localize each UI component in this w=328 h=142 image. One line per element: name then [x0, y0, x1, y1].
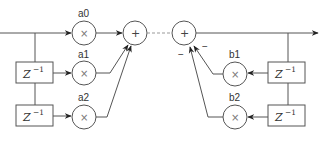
delay-exponent: −1: [285, 65, 296, 74]
delay-exponent: −1: [33, 65, 44, 74]
summation-node-right: +: [172, 21, 196, 45]
plus-icon: +: [131, 27, 140, 40]
delay-label: Z: [22, 68, 31, 81]
multiplier-a1: a1 ×: [72, 49, 96, 85]
coefficient-label: a2: [78, 92, 90, 103]
coefficient-label: a1: [78, 49, 90, 60]
delay-label: Z: [274, 111, 283, 124]
delay-box-left-1: Z −1: [16, 62, 53, 83]
delay-exponent: −1: [33, 108, 44, 117]
feedforward-section: Z −1 Z −1 a0 × a1 × a2 ×: [0, 8, 147, 129]
multiply-icon: ×: [80, 68, 88, 79]
coefficient-label: b1: [229, 49, 241, 60]
delay-label: Z: [22, 111, 31, 124]
feedback-section: + − − Z −1 Z −1 b1 × b2: [172, 21, 318, 129]
delay-box-right-2: Z −1: [268, 105, 305, 126]
delay-label: Z: [274, 68, 283, 81]
multiply-icon: ×: [80, 112, 88, 123]
delay-box-right-1: Z −1: [268, 62, 305, 83]
b2-to-sum-line: [190, 47, 223, 117]
iir-filter-diagram: Z −1 Z −1 a0 × a1 × a2 ×: [0, 0, 328, 142]
multiplier-b1: b1 ×: [223, 49, 247, 86]
minus-sign-b2: −: [178, 49, 184, 60]
multiplier-a0: a0 ×: [72, 8, 96, 45]
multiplier-a2: a2 ×: [72, 92, 96, 129]
delay-box-left-2: Z −1: [16, 105, 53, 126]
b1-to-sum-line: [194, 46, 223, 74]
multiply-icon: ×: [231, 112, 239, 123]
multiplier-b2: b2 ×: [223, 92, 247, 129]
coefficient-label: b2: [229, 92, 241, 103]
multiply-icon: ×: [231, 69, 239, 80]
minus-sign-b1: −: [202, 41, 208, 52]
coefficient-label: a0: [78, 8, 90, 19]
delay-exponent: −1: [285, 108, 296, 117]
summation-node-left: +: [123, 21, 147, 45]
multiply-icon: ×: [80, 28, 88, 39]
plus-icon: +: [180, 27, 189, 40]
a2-to-sum-line: [96, 46, 131, 117]
